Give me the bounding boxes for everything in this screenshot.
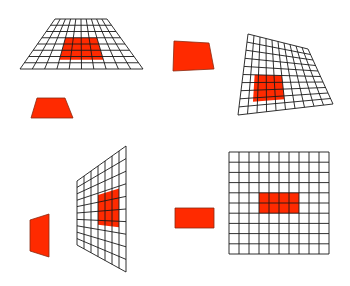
floor-perspective-grid bbox=[20, 19, 143, 69]
wall-perspective-grid bbox=[77, 146, 126, 272]
tilted-grid bbox=[238, 34, 333, 115]
red-quad-wall bbox=[30, 214, 49, 257]
red-rectangle-frontal bbox=[175, 208, 214, 228]
red-quad-tilted bbox=[173, 41, 214, 71]
grid-line-horizontal bbox=[242, 82, 323, 83]
red-trapezoid-floor bbox=[31, 98, 73, 118]
frontal-grid bbox=[229, 152, 329, 254]
figure-canvas bbox=[0, 0, 350, 286]
